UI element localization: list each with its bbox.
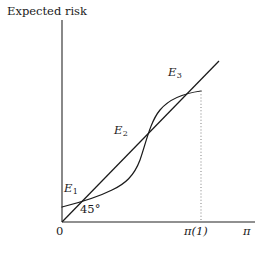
equilibrium-label-e1: E1: [64, 182, 78, 195]
expected-risk-figure: Expected risk 0 45° π(1) π E1 E2 E3: [0, 0, 270, 254]
x-tick-label-pi-one: π(1): [184, 225, 208, 238]
equilibrium-e3-sub: 3: [177, 71, 182, 80]
expected-risk-curve: [62, 91, 201, 207]
forty-five-degree-label: 45°: [80, 203, 100, 216]
origin-label: 0: [56, 225, 63, 238]
x-axis-label: π: [243, 225, 251, 238]
equilibrium-e3-name: E: [168, 65, 176, 79]
equilibrium-label-e3: E3: [168, 66, 182, 79]
plot-area: [0, 0, 270, 254]
equilibrium-label-e2: E2: [114, 124, 128, 137]
forty-five-degree-line: [62, 61, 219, 222]
equilibrium-e1-name: E: [64, 181, 72, 195]
equilibrium-e1-sub: 1: [73, 187, 78, 196]
equilibrium-e2-name: E: [114, 123, 122, 137]
y-axis-label: Expected risk: [7, 5, 87, 18]
equilibrium-e2-sub: 2: [123, 129, 128, 138]
